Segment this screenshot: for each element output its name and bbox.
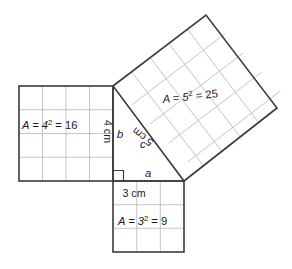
square-b-side-label: 4 cm bbox=[102, 120, 114, 143]
square-a-area-suffix: = 9 bbox=[148, 215, 167, 227]
figure-canvas: A = 42 = 16 4 cm b a c 5 cm A = 52 = 25 … bbox=[0, 0, 292, 269]
square-c-side-label: 5 cm bbox=[130, 125, 156, 149]
square-c-area-label: A = 52 = 25 bbox=[161, 86, 219, 105]
square-b-area-prefix: A = 4 bbox=[21, 119, 48, 131]
square-b-area-label: A = 42 = 16 bbox=[21, 118, 77, 131]
leg-b-label: b bbox=[117, 128, 123, 140]
square-b-area-suffix: = 16 bbox=[52, 119, 77, 131]
square-c-area-suffix: = 25 bbox=[192, 87, 218, 102]
square-c-area-prefix: A = 5 bbox=[161, 90, 190, 105]
square-a-side-label: 3 cm bbox=[123, 187, 146, 199]
square-b-gridlines bbox=[19, 86, 113, 181]
square-a-area-prefix: A = 3 bbox=[117, 215, 145, 227]
leg-a-label: a bbox=[145, 167, 151, 179]
right-angle-mark-icon bbox=[113, 171, 124, 182]
square-a-area-label: A = 32 = 9 bbox=[117, 214, 167, 227]
pythagorean-theorem-figure: A = 42 = 16 4 cm b a c 5 cm A = 52 = 25 … bbox=[0, 0, 292, 269]
square-on-leg-b bbox=[19, 86, 113, 181]
